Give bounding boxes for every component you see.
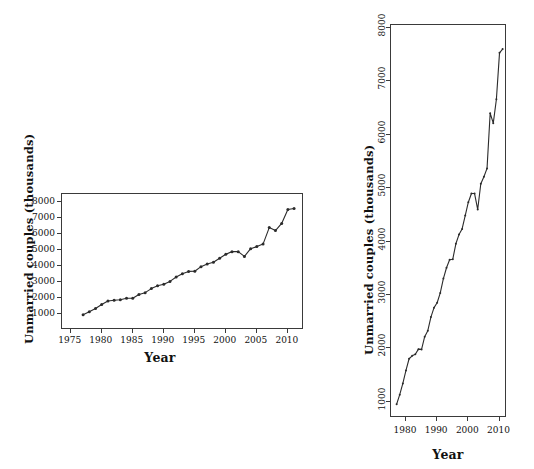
x-tick-mark <box>101 329 102 333</box>
x-tick-mark <box>132 329 133 333</box>
y-tick-label: 5000 <box>32 244 55 254</box>
right-panel-series-line <box>397 49 503 404</box>
x-tick-label: 1980 <box>394 425 417 435</box>
x-tick-mark <box>194 329 195 333</box>
y-tick-label: 2000 <box>377 331 387 359</box>
x-tick-label: 2005 <box>244 335 267 345</box>
y-tick-mark <box>386 80 390 81</box>
y-tick-mark <box>57 249 61 250</box>
y-tick-mark <box>386 134 390 135</box>
left-panel-series-line <box>83 208 294 314</box>
left-panel-x-axis-title: Year <box>144 350 175 365</box>
y-tick-mark <box>386 187 390 188</box>
x-tick-mark <box>256 329 257 333</box>
x-tick-label: 2000 <box>456 425 479 435</box>
y-tick-mark <box>57 201 61 202</box>
y-tick-label: 8000 <box>32 196 55 206</box>
x-tick-mark <box>436 417 437 421</box>
y-tick-mark <box>386 347 390 348</box>
y-tick-label: 5000 <box>377 171 387 199</box>
y-tick-label: 3000 <box>32 276 55 286</box>
y-tick-label: 2000 <box>32 292 55 302</box>
x-tick-mark <box>70 329 71 333</box>
x-tick-label: 1995 <box>182 335 205 345</box>
y-tick-label: 6000 <box>377 118 387 146</box>
y-tick-label: 8000 <box>377 11 387 39</box>
y-tick-label: 7000 <box>32 212 55 222</box>
left-panel-series-points <box>82 207 296 316</box>
x-tick-label: 2010 <box>487 425 510 435</box>
y-tick-mark <box>386 294 390 295</box>
y-tick-label: 4000 <box>377 225 387 253</box>
y-tick-label: 3000 <box>377 278 387 306</box>
y-tick-mark <box>57 281 61 282</box>
x-tick-label: 1985 <box>120 335 143 345</box>
y-tick-mark <box>386 27 390 28</box>
right-panel-y-axis-title: Unmarried couples (thousands) <box>362 145 376 355</box>
x-tick-mark <box>225 329 226 333</box>
y-tick-label: 6000 <box>32 228 55 238</box>
x-tick-label: 2010 <box>275 335 298 345</box>
y-tick-label: 4000 <box>32 260 55 270</box>
x-tick-mark <box>287 329 288 333</box>
x-tick-label: 1975 <box>58 335 81 345</box>
x-tick-label: 2000 <box>213 335 236 345</box>
x-tick-label: 1990 <box>425 425 448 435</box>
y-tick-mark <box>386 401 390 402</box>
x-tick-label: 1990 <box>151 335 174 345</box>
left-panel-plot-area <box>61 193 303 329</box>
y-tick-mark <box>57 233 61 234</box>
y-tick-mark <box>57 217 61 218</box>
right-panel-x-axis-title: Year <box>432 447 463 462</box>
y-tick-mark <box>57 297 61 298</box>
x-tick-mark <box>467 417 468 421</box>
x-tick-mark <box>499 417 500 421</box>
tall-aspect-chart-panel: Unmarried couples (thousands) Year 19801… <box>345 0 534 469</box>
y-tick-mark <box>386 241 390 242</box>
right-panel-plot-area <box>390 24 506 417</box>
right-panel-series-points <box>396 48 504 405</box>
x-tick-mark <box>405 417 406 421</box>
x-tick-mark <box>163 329 164 333</box>
y-tick-mark <box>57 313 61 314</box>
y-tick-mark <box>57 265 61 266</box>
y-tick-label: 1000 <box>377 385 387 413</box>
x-tick-label: 1980 <box>89 335 112 345</box>
wide-aspect-chart-panel: Unmarried couples (thousands) Year 19751… <box>0 150 340 380</box>
y-tick-label: 7000 <box>377 64 387 92</box>
y-tick-label: 1000 <box>32 308 55 318</box>
